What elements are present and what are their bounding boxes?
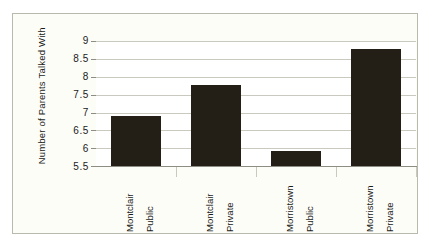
bar-morristown-public — [271, 151, 321, 166]
x-category-line: Public — [303, 166, 316, 232]
x-category-line: Montclair — [203, 166, 216, 232]
chart-frame: Number of Parents Talked With 9 8.5 8 7.… — [12, 13, 418, 234]
category-separator — [416, 167, 417, 177]
bar-montclair-private — [191, 85, 241, 166]
y-tick-label: 9 — [45, 36, 89, 46]
x-category-line: Montclair — [123, 166, 136, 232]
bar-montclair-public — [111, 116, 161, 166]
y-tick-label: 6 — [45, 144, 89, 154]
y-tick-label: 6.5 — [45, 126, 89, 136]
y-axis-tick-labels: 9 8.5 8 7.5 7 6.5 6 5.5 — [41, 14, 89, 233]
y-tick-label: 8 — [45, 72, 89, 82]
x-category-line: Private — [223, 166, 236, 232]
bar-morristown-private — [351, 49, 401, 166]
category-separator — [256, 167, 257, 177]
x-category-line: Morristown — [283, 166, 296, 232]
x-category-line: Private — [383, 166, 396, 232]
gridline — [96, 41, 416, 42]
chart-figure: Number of Parents Talked With 9 8.5 8 7.… — [0, 0, 431, 248]
y-tick-label: 5.5 — [45, 162, 89, 172]
category-separator — [176, 167, 177, 177]
plot-area — [96, 41, 416, 166]
x-category-line: Morristown — [363, 166, 376, 232]
y-tick-label: 7 — [45, 108, 89, 118]
y-tick-label: 7.5 — [45, 90, 89, 100]
category-separator — [336, 167, 337, 177]
x-category-line: Public — [143, 166, 156, 232]
y-tick-label: 8.5 — [45, 54, 89, 64]
